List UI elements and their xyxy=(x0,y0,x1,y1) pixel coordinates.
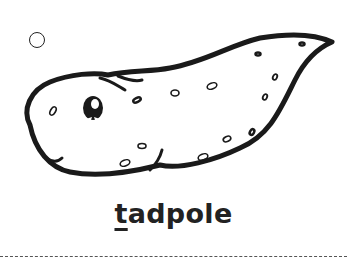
tadpole-illustration xyxy=(0,0,347,200)
tadpole-eye xyxy=(83,96,103,123)
picture-word-card: tadpole xyxy=(0,0,347,261)
word-rest: adpole xyxy=(128,198,233,229)
word-label: tadpole xyxy=(0,198,347,229)
highlighted-first-letter: t xyxy=(114,198,127,229)
dashed-cut-line xyxy=(0,256,347,257)
